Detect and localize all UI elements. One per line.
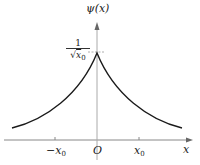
y-axis-arrow-icon [95, 22, 100, 30]
y-axis-label: ψ(x) [86, 3, 109, 14]
x-axis-label: x [183, 144, 189, 155]
diagram-canvas [0, 0, 200, 165]
x-axis-arrow-icon [186, 138, 193, 143]
tick-label-x0: x0 [134, 145, 145, 158]
origin-label: O [93, 145, 102, 156]
peak-value-label: 1 √x0 [65, 38, 91, 64]
tick-label-neg-x0: −x0 [46, 145, 66, 158]
